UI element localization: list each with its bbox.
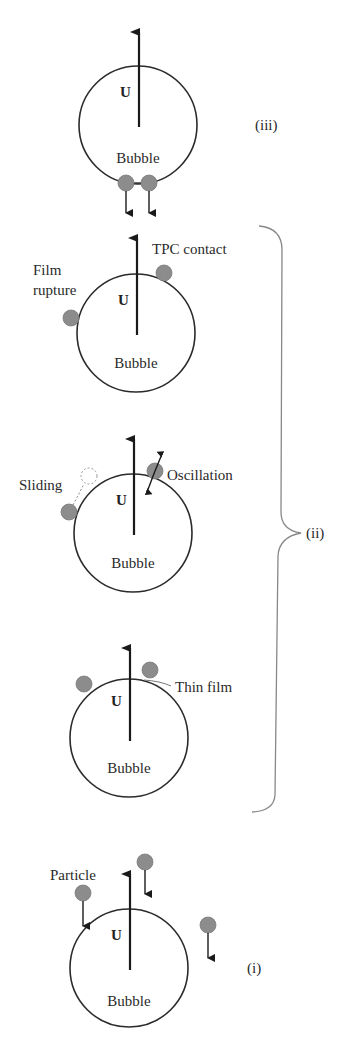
particle-icon	[63, 310, 79, 326]
particle-icon	[76, 676, 92, 692]
stage-iii-detachment: U Bubble (iii)	[79, 32, 278, 213]
bubble-label: Bubble	[107, 993, 151, 1009]
velocity-label: U	[116, 492, 127, 508]
stage-ii-brace: (ii)	[252, 226, 324, 812]
stage-i-approach: U Bubble Particle (i)	[50, 854, 261, 1027]
bubble-label: Bubble	[114, 355, 158, 371]
particle-icon	[118, 175, 134, 191]
velocity-label: U	[111, 693, 122, 709]
oscillation-label: Oscillation	[167, 467, 233, 483]
film-label: Film	[33, 262, 62, 278]
stage-label-iii: (iii)	[255, 117, 278, 134]
particle-icon	[61, 504, 77, 520]
stage-ii-thin-film: U Bubble Thin film	[70, 648, 232, 797]
particle-icon	[75, 885, 91, 901]
bubble-particle-interaction-diagram: U Bubble (iii) U Bubble TPC contact Film…	[0, 0, 345, 1041]
rupture-label: rupture	[33, 282, 77, 298]
sliding-label: Sliding	[19, 477, 63, 493]
curly-brace-icon	[252, 226, 301, 812]
particle-icon	[141, 175, 157, 191]
particle-label: Particle	[50, 867, 96, 883]
particle-icon	[200, 917, 216, 933]
particle-icon	[142, 662, 158, 678]
bubble-label: Bubble	[116, 150, 160, 166]
velocity-label: U	[120, 84, 131, 100]
velocity-label: U	[111, 927, 122, 943]
particle-icon	[137, 854, 153, 870]
stage-label-ii: (ii)	[306, 525, 324, 542]
velocity-label: U	[118, 292, 129, 308]
stage-label-i: (i)	[247, 960, 261, 977]
ghost-particle-icon	[81, 468, 97, 484]
bubble-label: Bubble	[111, 555, 155, 571]
bubble-label: Bubble	[107, 760, 151, 776]
stage-ii-tpc-contact: U Bubble TPC contact Film rupture	[33, 238, 227, 392]
thin-film-label: Thin film	[175, 679, 232, 695]
tpc-contact-label: TPC contact	[152, 241, 227, 257]
stage-ii-sliding-oscillation: U Bubble Sliding Oscillation	[19, 439, 233, 592]
particle-icon	[156, 265, 172, 281]
